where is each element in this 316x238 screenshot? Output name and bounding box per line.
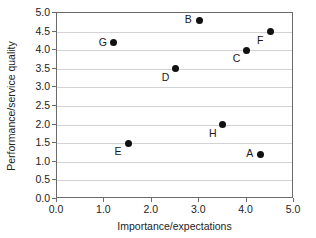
point-label-h: H [203,127,223,139]
gridline [57,125,292,126]
x-tick-label: 4.0 [226,203,266,216]
x-tick-label: 2.0 [131,203,171,216]
gridline [57,87,292,88]
y-tick-label: 3.0 [8,80,50,92]
y-tick-label: 2.5 [8,99,50,111]
x-tick-mark [103,198,104,202]
y-tick-label: 4.5 [8,25,50,37]
gridline [57,162,292,163]
x-tick-label: 1.0 [83,203,123,216]
x-tick-mark [151,198,152,202]
point-label-e: E [108,145,128,157]
point-label-a: A [240,147,260,159]
x-axis-title: Importance/expectations [56,219,293,233]
scatter-chart: Performance/service quality Importance/e… [0,0,316,238]
gridline [57,143,292,144]
point-label-f: F [250,34,270,46]
x-tick-mark [56,198,57,202]
x-tick-label: 5.0 [273,203,313,216]
x-tick-mark [246,198,247,202]
gridline [57,50,292,51]
y-tick-label: 1.0 [8,155,50,167]
gridline [57,180,292,181]
x-tick-mark [198,198,199,202]
point-label-c: C [227,52,247,64]
y-tick-label: 4.0 [8,43,50,55]
x-tick-mark [293,198,294,202]
x-tick-label: 3.0 [178,203,218,216]
y-tick-label: 3.5 [8,62,50,74]
y-tick-label: 5.0 [8,6,50,18]
y-tick-label: 0.5 [8,173,50,185]
gridline [57,32,292,33]
point-label-g: G [93,36,113,48]
gridline [57,106,292,107]
y-tick-label: 1.5 [8,136,50,148]
x-tick-label: 0.0 [36,203,76,216]
point-label-b: B [178,13,198,25]
y-tick-label: 2.0 [8,118,50,130]
point-label-d: D [156,71,176,83]
